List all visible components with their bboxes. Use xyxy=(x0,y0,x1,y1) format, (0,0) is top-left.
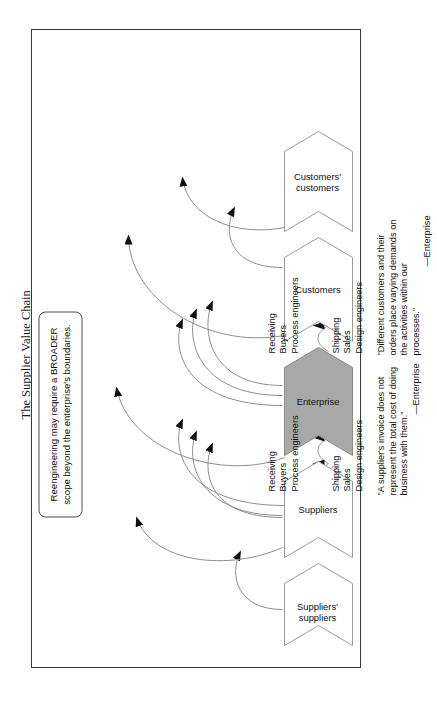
callout-box: Reengineering may require a BROADER scop… xyxy=(38,311,82,517)
diagram-canvas: Suppliers' suppliers Suppliers Enterpris… xyxy=(32,30,360,667)
supplier-quote-attribution: —Enterprise xyxy=(410,363,421,495)
flow-labels-supplier-outbound: Shipping Sales Design engineers xyxy=(330,419,364,491)
chevron-label-customers-customers: Customers' customers xyxy=(277,170,357,192)
callout-text: Reengineering may require a BROADER scop… xyxy=(47,319,72,509)
flow-labels-supplier-inbound: Receiving Buyers Process engineers xyxy=(266,415,300,491)
flow-labels-customer-outbound: Shipping Sales Design engineers xyxy=(330,281,364,353)
customer-quote-text: "Different customers and their orders pl… xyxy=(375,219,419,355)
supplier-quote: "A supplier's invoice does not represent… xyxy=(364,363,432,495)
diagram-frame: Suppliers' suppliers Suppliers Enterpris… xyxy=(31,29,361,668)
chevron-label-suppliers: Suppliers xyxy=(278,504,358,515)
chevron-label-enterprise: Enterprise xyxy=(278,396,358,407)
customer-quote-attribution: —Enterprise xyxy=(421,215,432,355)
supplier-quote-text: "A supplier's invoice does not represent… xyxy=(375,366,408,495)
flow-labels-customer-inbound: Receiving Buyers Process engineers xyxy=(266,277,300,353)
customer-quote: "Different customers and their orders pl… xyxy=(364,215,437,355)
chevron-label-suppliers-suppliers: Suppliers' suppliers xyxy=(277,600,357,622)
